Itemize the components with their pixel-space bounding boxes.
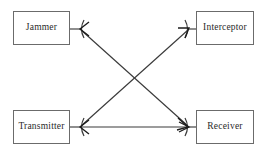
node-jammer-label: Jammer bbox=[26, 23, 57, 33]
node-interceptor-label: Interceptor bbox=[203, 23, 247, 33]
bracket-jammer bbox=[82, 20, 85, 38]
node-transmitter[interactable]: Transmitter bbox=[13, 110, 70, 144]
diagram-canvas: Jammer Interceptor Transmitter Receiver bbox=[0, 0, 266, 158]
node-interceptor[interactable]: Interceptor bbox=[196, 11, 254, 45]
node-receiver-label: Receiver bbox=[207, 122, 242, 132]
node-transmitter-label: Transmitter bbox=[18, 122, 64, 132]
node-jammer[interactable]: Jammer bbox=[13, 11, 70, 45]
node-receiver[interactable]: Receiver bbox=[196, 110, 254, 144]
